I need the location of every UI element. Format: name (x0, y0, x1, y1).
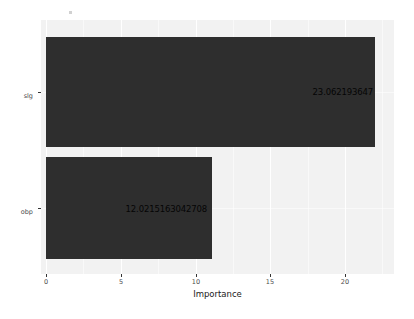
gridline-x-22p5 (382, 20, 383, 274)
x-tick-mark-5 (121, 274, 122, 277)
bar-value-label-obp: 12.0215163042708 (109, 204, 207, 214)
plot-panel: 23.062193647 12.0215163042708 (41, 20, 394, 274)
x-axis-title: Importance (41, 289, 394, 299)
y-axis: slg obp (0, 20, 38, 274)
x-tick-label-10: 10 (192, 278, 200, 286)
x-tick-label-0: 0 (44, 278, 48, 286)
x-tick-mark-0 (46, 274, 47, 277)
bar-value-label-slg: 23.062193647 (275, 87, 373, 97)
x-tick-mark-15 (270, 274, 271, 277)
image-artifact-speck (69, 11, 72, 14)
y-tick-label-obp: obp (21, 208, 33, 216)
chart-figure: slg obp 23.062193647 12.0215163042708 (0, 0, 414, 319)
y-tick-label-slg: slg (24, 92, 33, 100)
y-tick-slg: slg (24, 83, 33, 102)
x-tick-label-20: 20 (341, 278, 349, 286)
x-tick-label-5: 5 (119, 278, 123, 286)
x-tick-mark-10 (196, 274, 197, 277)
x-tick-label-15: 15 (266, 278, 274, 286)
y-tick-obp: obp (21, 199, 33, 218)
x-tick-mark-20 (345, 274, 346, 277)
